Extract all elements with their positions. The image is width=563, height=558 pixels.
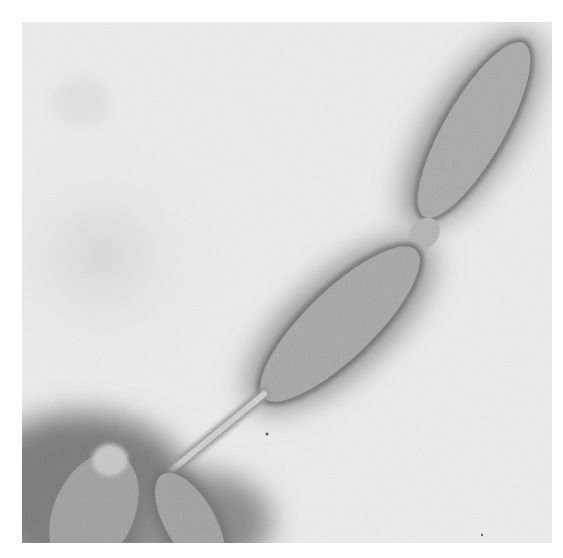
page — [0, 0, 563, 558]
micrograph-image — [22, 22, 552, 543]
micrograph-svg — [22, 22, 552, 543]
